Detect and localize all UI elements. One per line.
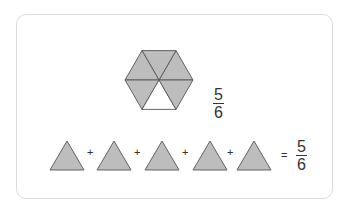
triangle-term-5 bbox=[237, 141, 271, 170]
triangle-term-3 bbox=[145, 141, 179, 170]
plus-operator-3: + bbox=[182, 146, 188, 158]
hexagon-fraction-numerator: 5 bbox=[214, 87, 223, 102]
result-fraction-numerator: 5 bbox=[297, 139, 306, 154]
hexagon-shape bbox=[125, 51, 193, 110]
plus-operator-2: + bbox=[134, 146, 140, 158]
equation-triangles bbox=[50, 141, 271, 170]
fraction-diagram bbox=[0, 0, 349, 213]
triangle-term-1 bbox=[50, 141, 84, 170]
plus-operator-1: + bbox=[87, 146, 93, 158]
triangle-term-4 bbox=[193, 141, 227, 170]
equals-sign: = bbox=[281, 149, 287, 161]
triangle-term-2 bbox=[97, 141, 131, 170]
result-fraction-denominator: 6 bbox=[297, 157, 306, 172]
result-fraction: 5 6 bbox=[296, 139, 307, 172]
plus-operator-4: + bbox=[227, 146, 233, 158]
hexagon-fraction-denominator: 6 bbox=[214, 105, 223, 120]
hexagon-fraction: 5 6 bbox=[213, 87, 224, 120]
